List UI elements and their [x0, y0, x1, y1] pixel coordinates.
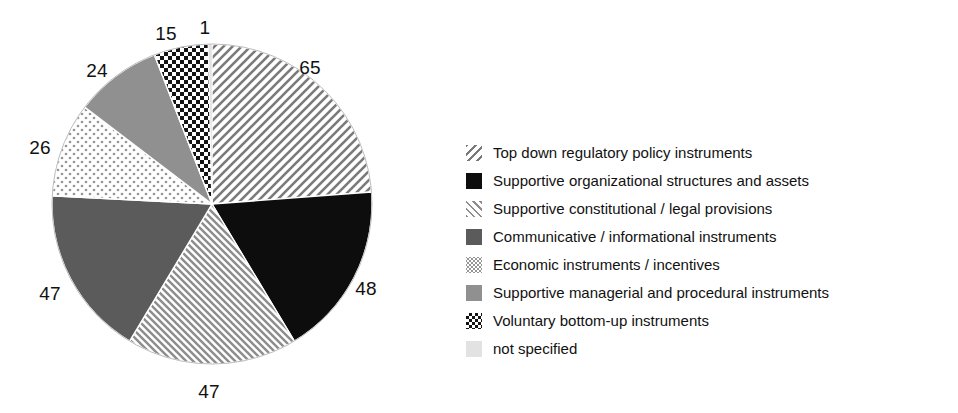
- legend-item-label: Supportive managerial and procedural ins…: [493, 285, 829, 301]
- legend-swatch-icon: [466, 257, 482, 273]
- legend-swatch-icon: [466, 229, 482, 245]
- pie-slice: [212, 44, 372, 204]
- legend-swatch-icon: [466, 145, 482, 161]
- legend-item[interactable]: Supportive constitutional / legal provis…: [466, 195, 946, 223]
- pie-slice-value-label: 47: [39, 283, 61, 305]
- pie-slice-value-label: 26: [29, 137, 51, 159]
- legend-item-label: Economic instruments / incentives: [493, 257, 720, 273]
- pie-slice-value-label: 48: [355, 278, 377, 300]
- legend-item[interactable]: not specified: [466, 335, 946, 363]
- legend-item-label: Top down regulatory policy instruments: [493, 145, 752, 161]
- legend-swatch-icon: [466, 285, 482, 301]
- pie-slice-value-label: 65: [299, 57, 321, 79]
- pie-chart-svg: [0, 0, 430, 413]
- legend-item[interactable]: Economic instruments / incentives: [466, 251, 946, 279]
- chart-legend: Top down regulatory policy instrumentsSu…: [466, 139, 946, 363]
- legend-item-label: Communicative / informational instrument…: [493, 229, 776, 245]
- legend-swatch-icon: [466, 173, 482, 189]
- pie-chart-figure: 654847472624151 Top down regulatory poli…: [0, 0, 958, 413]
- legend-swatch-icon: [466, 201, 482, 217]
- legend-item[interactable]: Voluntary bottom-up instruments: [466, 307, 946, 335]
- pie-slice-value-label: 47: [198, 381, 220, 403]
- pie-slice-value-label: 24: [86, 60, 108, 82]
- legend-item-label: Voluntary bottom-up instruments: [493, 313, 709, 329]
- legend-item[interactable]: Supportive organizational structures and…: [466, 167, 946, 195]
- legend-swatch-icon: [466, 341, 482, 357]
- legend-item[interactable]: Supportive managerial and procedural ins…: [466, 279, 946, 307]
- legend-item-label: not specified: [493, 341, 577, 357]
- pie-chart-area: 654847472624151: [0, 0, 430, 413]
- pie-slice-value-label: 15: [155, 23, 177, 45]
- legend-item[interactable]: Top down regulatory policy instruments: [466, 139, 946, 167]
- legend-swatch-icon: [466, 313, 482, 329]
- legend-item[interactable]: Communicative / informational instrument…: [466, 223, 946, 251]
- pie-slice-value-label: 1: [200, 17, 211, 39]
- pie-slices: [52, 44, 372, 364]
- legend-item-label: Supportive constitutional / legal provis…: [493, 201, 772, 217]
- legend-item-label: Supportive organizational structures and…: [493, 173, 809, 189]
